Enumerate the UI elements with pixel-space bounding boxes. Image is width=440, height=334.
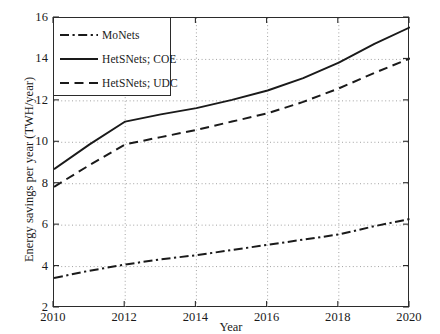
dashed-sample: [59, 77, 99, 89]
legend-label: HetSNets; COE: [102, 53, 176, 65]
legend-label: HetSNets; UDC: [102, 77, 178, 89]
x-axis-title: Year: [53, 320, 409, 334]
dash-dot-sample: [59, 29, 99, 41]
legend-item-3: HetSNets; UDC: [54, 71, 170, 95]
chart-legend: MoNetsHetSNets; COEHetSNets; UDC: [53, 17, 171, 96]
legend-label: MoNets: [102, 29, 140, 41]
solid-sample: [59, 53, 99, 65]
legend-item-2: HetSNets; COE: [54, 47, 170, 71]
energy-savings-line-chart: 246810121416 Energy savings per year (TW…: [0, 0, 440, 334]
legend-item-1: MoNets: [54, 23, 170, 47]
